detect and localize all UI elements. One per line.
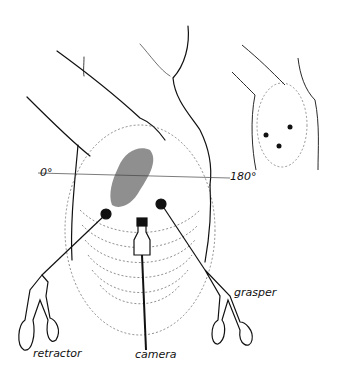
camera-label: camera bbox=[135, 348, 177, 361]
inset-field bbox=[257, 83, 307, 167]
arm-lower bbox=[27, 97, 90, 156]
camera-body bbox=[134, 225, 150, 255]
retractor-shaft bbox=[42, 215, 105, 275]
retractor-label: retractor bbox=[33, 347, 81, 360]
inset-port-marks bbox=[264, 125, 293, 149]
torso-left bbox=[72, 145, 78, 260]
inset-torso bbox=[252, 95, 256, 170]
retractor-handle bbox=[19, 275, 59, 350]
inset-arm bbox=[242, 45, 285, 85]
grasper-shaft bbox=[162, 205, 205, 270]
shoulder-line bbox=[173, 26, 211, 185]
grasper-label: grasper bbox=[234, 286, 276, 299]
angle-180-label: 180° bbox=[230, 170, 257, 183]
torso-right bbox=[205, 185, 211, 262]
illustration bbox=[0, 0, 339, 386]
camera-scope bbox=[142, 255, 146, 350]
angle-0-label: 0° bbox=[40, 166, 53, 179]
grasper-handle bbox=[205, 270, 252, 345]
arm-upper bbox=[57, 51, 165, 140]
wound-area bbox=[110, 148, 153, 207]
